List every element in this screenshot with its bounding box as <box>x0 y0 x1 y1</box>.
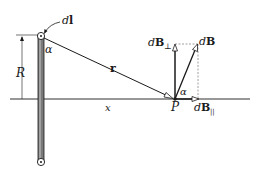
alpha-P-label: α <box>180 86 187 97</box>
dl-label-l: l <box>69 14 73 27</box>
dB-perp-label-d: d <box>148 36 155 49</box>
biot-savart-diagram: d l α R r x P α d B ⊥ d B d B || <box>0 0 264 183</box>
dB-perp-subscript: ⊥ <box>164 42 172 51</box>
dB-par-subscript: || <box>210 108 215 116</box>
R-label: R <box>15 66 25 80</box>
dB-par-label-d: d <box>194 101 201 114</box>
r-arrowhead <box>164 93 173 99</box>
x-label: x <box>105 102 111 113</box>
dB-par-label-B: B <box>201 101 210 114</box>
wire <box>37 32 44 165</box>
P-label: P <box>170 100 180 114</box>
alpha-wire-label: α <box>45 43 53 56</box>
dl-pointer-arrow <box>45 22 60 32</box>
dB-perp-label-B: B <box>155 36 164 49</box>
r-label: r <box>110 62 116 75</box>
dB-label-d: d <box>199 35 206 48</box>
dl-label-d: d <box>62 14 69 27</box>
dB-label-B: B <box>206 35 215 48</box>
